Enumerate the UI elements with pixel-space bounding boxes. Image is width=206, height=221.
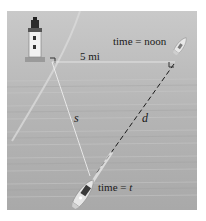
distance-label: 5 mi [80, 51, 100, 62]
boat-time-t-icon [69, 177, 97, 211]
time-t-prefix: time = [98, 181, 129, 193]
time-t-label: time = t [98, 182, 132, 193]
line-s [52, 62, 90, 176]
lighthouse-icon [25, 17, 45, 62]
boat-noon-icon [172, 36, 189, 56]
s-label: s [74, 112, 79, 124]
time-noon-label: time = noon [113, 36, 166, 47]
d-label: d [142, 112, 148, 124]
time-t-variable: t [129, 181, 132, 193]
